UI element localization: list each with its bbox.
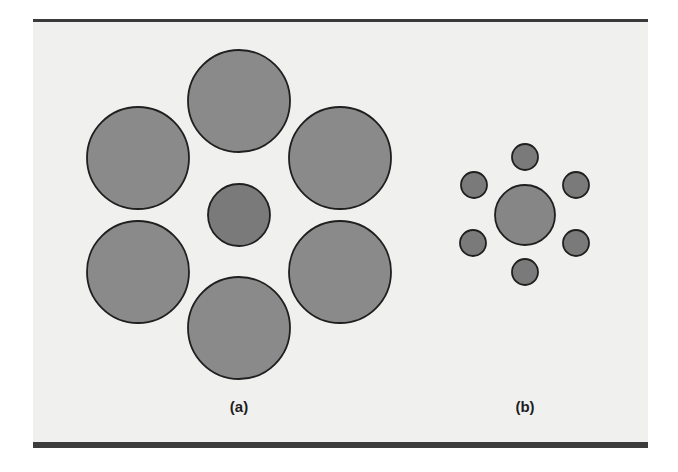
circle-a-bottom [188, 277, 290, 379]
panel-b-label: (b) [515, 398, 534, 415]
panel-a-circle-arrangement [87, 50, 391, 379]
circle-b-top [512, 144, 538, 170]
circle-a-top [188, 50, 290, 152]
panel-b-circle-arrangement [460, 144, 589, 285]
circle-b-lower-left [460, 230, 486, 256]
circle-a-lower-left [87, 221, 189, 323]
circle-b-center [495, 185, 555, 245]
panel-a-label: (a) [230, 398, 248, 415]
circle-a-center [208, 184, 270, 246]
circle-a-lower-right [289, 221, 391, 323]
circle-a-upper-left [87, 107, 189, 209]
diagram-canvas [0, 0, 678, 472]
circle-b-upper-right [563, 172, 589, 198]
circle-b-bottom [512, 259, 538, 285]
circle-a-upper-right [289, 107, 391, 209]
circle-b-lower-right [563, 230, 589, 256]
circle-b-upper-left [461, 172, 487, 198]
